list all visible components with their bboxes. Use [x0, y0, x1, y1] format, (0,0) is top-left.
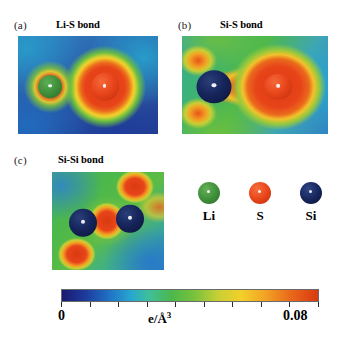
legend-label-si: Si	[288, 209, 334, 222]
density-map-si-si	[52, 172, 164, 270]
panel-c-title: Si-Si bond	[58, 154, 103, 165]
atom-s-panel-b	[264, 74, 292, 100]
density-map-li-s	[18, 36, 158, 134]
legend-item-s: S	[237, 182, 283, 222]
colorbar-ticks	[61, 302, 319, 307]
figure-electron-density-maps: (a) Li-S bond (b) Si-S bond (c) Si-Si bo…	[0, 0, 342, 346]
colorbar-tick	[175, 302, 176, 307]
s-sphere-icon	[249, 182, 271, 204]
colorbar-min-label: 0	[58, 308, 65, 324]
colorbar-tick	[261, 302, 262, 307]
legend-label-s: S	[237, 209, 283, 222]
panel-a: (a) Li-S bond	[0, 0, 170, 148]
li-sphere-icon	[198, 182, 220, 204]
colorbar-tick	[232, 302, 233, 307]
colorbar-tick	[204, 302, 205, 307]
atom-legend: Li S Si	[186, 182, 336, 244]
atom-li-panel-a	[38, 75, 62, 99]
panel-b: (b) Si-S bond	[170, 0, 342, 148]
legend-label-li: Li	[186, 209, 232, 222]
panel-b-tag: (b)	[178, 19, 191, 31]
panel-b-title: Si-S bond	[220, 19, 263, 30]
density-map-si-s	[182, 36, 328, 134]
si-sphere-icon	[300, 182, 322, 204]
colorbar-tick	[118, 302, 119, 307]
colorbar-tick	[318, 302, 319, 307]
colorbar-unit-prefix: e/Å	[148, 311, 167, 326]
legend-item-si: Si	[288, 182, 334, 222]
colorbar-unit-exponent: 3	[167, 310, 172, 320]
colorbar-max-label: 0.08	[283, 308, 308, 324]
colorbar-section: 0 0.08 e/Å3	[0, 286, 342, 344]
colorbar-tick	[90, 302, 91, 307]
panel-c-tag: (c)	[14, 154, 27, 166]
panel-a-title: Li-S bond	[56, 19, 100, 30]
colorbar-unit-label: e/Å3	[148, 310, 171, 327]
colorbar-tick	[289, 302, 290, 307]
density-colorbar	[61, 289, 319, 302]
legend-item-li: Li	[186, 182, 232, 222]
colorbar-tick	[147, 302, 148, 307]
colorbar-tick	[61, 302, 62, 307]
panel-c: (c) Si-Si bond	[0, 148, 180, 278]
panel-a-tag: (a)	[14, 19, 27, 31]
